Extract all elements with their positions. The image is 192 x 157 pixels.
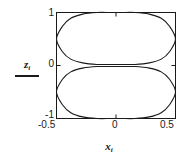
plot-area	[0, 0, 192, 157]
plot-frame	[57, 13, 176, 119]
chart-figure: zi xi 1 0 -1 -0.5 0 0.5	[0, 0, 192, 157]
